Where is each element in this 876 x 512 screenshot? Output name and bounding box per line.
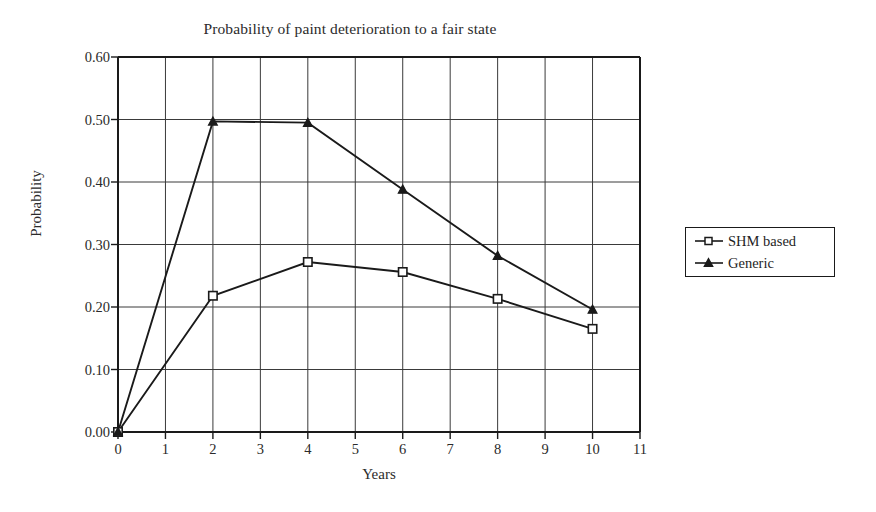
filled-triangle-marker-icon — [694, 255, 724, 271]
axis-tick-marks — [111, 57, 640, 439]
data-point-marker — [588, 305, 597, 313]
open-square-marker-icon — [694, 233, 724, 249]
data-point-marker — [399, 268, 407, 276]
data-point-marker — [209, 292, 217, 300]
legend-label-shm-based: SHM based — [728, 234, 796, 249]
legend-item-generic: Generic — [694, 252, 774, 274]
data-point-marker — [493, 295, 501, 303]
legend-item-shm-based: SHM based — [694, 230, 796, 252]
chart-legend: SHM based Generic — [685, 227, 835, 277]
horizontal-gridlines — [118, 57, 640, 432]
data-point-marker — [304, 258, 312, 266]
chart-figure: Probability of paint deterioration to a … — [0, 0, 876, 512]
legend-label-generic: Generic — [728, 256, 774, 271]
data-point-marker — [588, 325, 596, 333]
